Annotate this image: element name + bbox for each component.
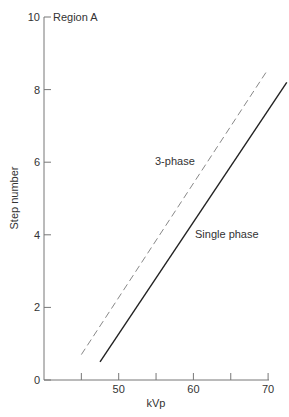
svg-text:50: 50: [113, 383, 125, 395]
series-label-3-phase: 3-phase: [155, 155, 195, 167]
svg-text:4: 4: [34, 229, 40, 241]
y-ticks: 0246810: [28, 11, 51, 386]
svg-text:70: 70: [262, 383, 274, 395]
svg-text:6: 6: [34, 156, 40, 168]
region-annotation: Region A: [53, 11, 98, 23]
series-label-single-phase: Single phase: [195, 228, 259, 240]
y-axis-label: Step number: [8, 166, 20, 229]
svg-text:0: 0: [34, 374, 40, 386]
svg-text:2: 2: [34, 301, 40, 313]
svg-text:8: 8: [34, 84, 40, 96]
svg-text:60: 60: [187, 383, 199, 395]
x-axis-label: kVp: [147, 397, 166, 409]
chart: 0246810 506070 Region A 3-phase Single p…: [0, 0, 289, 417]
series: [81, 71, 286, 361]
x-ticks: 506070: [81, 373, 274, 395]
svg-text:10: 10: [28, 11, 40, 23]
